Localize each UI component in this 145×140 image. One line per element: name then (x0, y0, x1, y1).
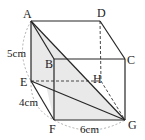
vertex-label-d: D (97, 6, 106, 20)
dimension-label-fg: 6cm (80, 123, 99, 135)
vertex-label-c: C (127, 53, 135, 67)
vertex-label-f: F (49, 122, 56, 136)
vertex-label-b: B (45, 57, 53, 71)
dimension-label-ef: 4cm (19, 96, 38, 108)
prism-diagram: A D B C E H F G 5cm 4cm 6cm (0, 0, 145, 140)
vertex-label-h: H (93, 72, 102, 86)
vertex-label-e: E (20, 75, 27, 89)
vertex-label-g: G (128, 118, 137, 132)
edge-dc (100, 21, 125, 59)
vertex-label-a: A (23, 7, 32, 21)
dimension-label-ae: 5cm (7, 47, 26, 59)
